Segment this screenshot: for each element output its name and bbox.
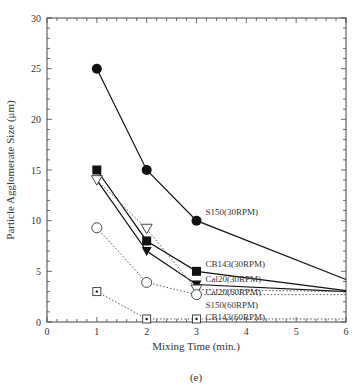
x-tick-label: 1 [94,326,99,337]
series-label: CB143(60RPM) [206,312,266,322]
series-label: Cal20(60RPM) [206,287,262,297]
series-line [97,69,346,280]
series-label: S150(30RPM) [206,207,259,217]
marker-open-triangle [141,224,152,234]
series-label: CB143(30RPM) [206,259,266,269]
marker-filled-square [192,267,201,276]
x-tick-label: 4 [244,326,249,337]
marker-open-circle [92,223,102,233]
y-tick-label: 25 [31,63,41,74]
marker-open-triangle [91,176,102,186]
marker-filled-circle [142,165,152,175]
line-chart: 0123456051015202530 S150(30RPM)CB143(30R… [0,0,355,386]
y-tick-label: 10 [31,215,41,226]
marker-filled-square [92,166,101,175]
y-tick-label: 0 [36,317,41,328]
y-tick-label: 20 [31,114,41,125]
figure-caption: (e) [190,371,203,384]
y-tick-label: 15 [31,165,41,176]
series-label: S150(60RPM) [206,300,259,310]
x-tick-label: 2 [144,326,149,337]
marker-filled-triangle [142,247,152,256]
x-tick-label: 6 [344,326,349,337]
y-tick-label: 5 [36,266,41,277]
marker-filled-circle [192,216,202,226]
x-tick-label: 0 [45,326,50,337]
plot-border [47,18,346,322]
y-tick-label: 30 [31,13,41,24]
x-tick-label: 3 [194,326,199,337]
axis-ticks: 0123456051015202530 [31,13,349,338]
marker-filled-circle [92,64,102,74]
x-tick-label: 5 [294,326,299,337]
series-label: Cal20(30RPM) [206,274,262,284]
plot-frame [47,18,346,322]
marker-open-circle [192,290,202,300]
marker-filled-square [142,236,151,245]
x-axis-label: Mixing Time (min.) [152,340,240,353]
marker-open-circle [142,277,152,287]
y-axis-label: Particle Agglomerate Size (μm) [4,100,17,240]
series-labels: S150(30RPM)CB143(30RPM)Cal20(30RPM)Cal20… [206,207,266,322]
